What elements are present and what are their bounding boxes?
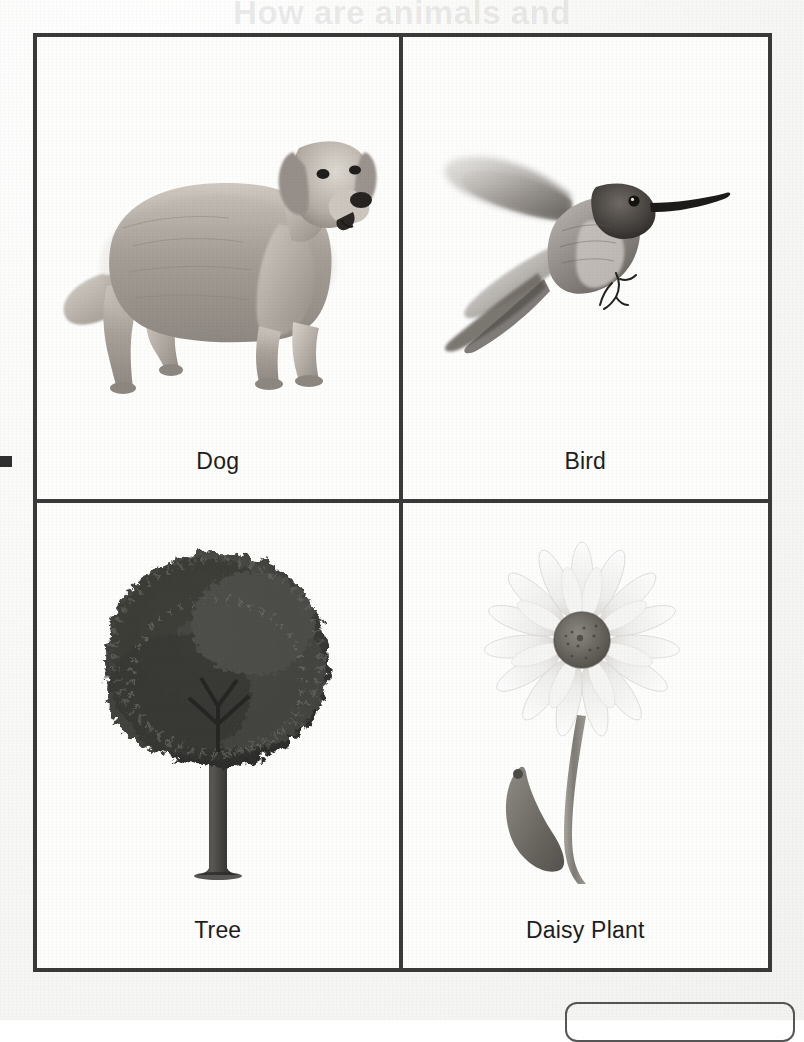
- table-cell-dog[interactable]: Dog: [37, 37, 403, 503]
- table-cell-bird[interactable]: Bird: [403, 37, 769, 503]
- photo-dog-golden-retriever: [53, 96, 383, 396]
- photo-hummingbird-in-flight: [420, 123, 750, 373]
- bleed-through-heading: How are animals and: [40, 0, 764, 32]
- table-cell-tree[interactable]: Tree: [37, 503, 403, 969]
- table-cell-daisy[interactable]: Daisy Plant: [403, 503, 769, 969]
- figure-dog: [37, 37, 399, 450]
- cell-label-tree: Tree: [194, 919, 241, 954]
- answer-box-partial[interactable]: [565, 1002, 795, 1042]
- cell-label-bird: Bird: [564, 450, 606, 485]
- picture-label-table: Dog: [33, 33, 772, 972]
- figure-daisy: [403, 503, 769, 920]
- scan-edge-mark: [0, 456, 12, 467]
- photo-white-daisy-flower: [460, 540, 710, 885]
- cell-label-dog: Dog: [196, 450, 239, 485]
- photo-deciduous-tree: [83, 538, 353, 888]
- figure-bird: [403, 37, 769, 450]
- figure-tree: [37, 503, 399, 920]
- cell-label-daisy: Daisy Plant: [526, 919, 645, 954]
